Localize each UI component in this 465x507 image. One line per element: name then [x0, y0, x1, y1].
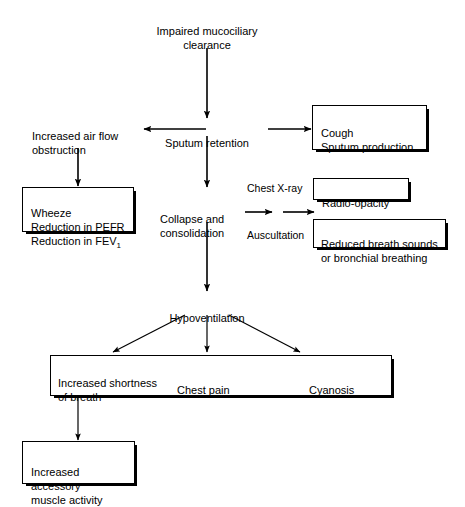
node-hypoventilation-label: Hypoventilation	[169, 312, 244, 324]
node-reduced-breath-label: Reduced breath sounds or bronchial breat…	[321, 238, 438, 264]
node-shortness-label: Increased shortness of breath	[58, 377, 157, 403]
node-cough-sputum-production: Cough Sputum production	[312, 105, 427, 150]
node-airflow-label: Increased air flow obstruction	[32, 130, 118, 156]
node-cyanosis: Cyanosis	[309, 369, 389, 397]
node-radio-opacity-label: Radio-opacity	[322, 197, 389, 209]
node-wheeze-label: Wheeze Reduction in PEFR Reduction in FE…	[31, 207, 125, 247]
node-radio-opacity: Radio-opacity	[313, 178, 409, 200]
node-increased-accessory-muscle-activity: Increased accessory muscle activity	[22, 441, 135, 484]
node-impaired-mucociliary-clearance: Impaired mucociliary clearance	[137, 10, 277, 52]
node-chest-xray-label: Chest X-ray	[247, 182, 302, 194]
node-chest-pain-label: Chest pain	[177, 384, 230, 396]
node-wheeze-subscript: 1	[117, 241, 121, 250]
node-cough-label: Cough Sputum production	[321, 127, 413, 153]
node-impaired-label: Impaired mucociliary clearance	[157, 25, 258, 51]
node-chest-xray: Chest X-ray	[247, 182, 302, 195]
node-sputum-retention: Sputum retention	[147, 122, 267, 150]
node-reduced-breath-sounds: Reduced breath sounds or bronchial breat…	[313, 219, 446, 248]
node-collapse-label: Collapse and consolidation	[160, 213, 224, 239]
node-hypoventilation: Hypoventilation	[157, 297, 257, 325]
node-auscultation: Auscultation	[247, 229, 304, 242]
node-wheeze-pefr-fev1: Wheeze Reduction in PEFR Reduction in FE…	[22, 187, 134, 232]
node-collapse-and-consolidation: Collapse and consolidation	[160, 198, 255, 240]
node-auscultation-label: Auscultation	[247, 229, 304, 241]
node-sputum-retention-label: Sputum retention	[165, 137, 249, 149]
node-cyanosis-label: Cyanosis	[309, 384, 354, 396]
node-chest-pain: Chest pain	[177, 369, 267, 397]
node-increased-air-flow-obstruction: Increased air flow obstruction	[32, 115, 152, 157]
